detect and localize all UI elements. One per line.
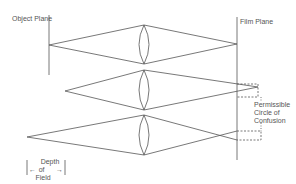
in-focus-rays <box>49 25 237 64</box>
near-limit-rays <box>65 70 258 110</box>
lens-top <box>139 25 149 64</box>
dof-line-1: Depth <box>26 158 66 166</box>
coc-box-bottom <box>237 131 261 140</box>
coc-line-2: Circle of <box>254 109 290 117</box>
object-plane-label: Object Plane <box>12 15 52 23</box>
left-arrow-icon: ← <box>29 166 36 174</box>
far-limit-rays <box>27 115 261 155</box>
right-arrow-icon: → <box>56 166 63 174</box>
lens-middle <box>139 70 149 110</box>
film-plane-label: Film Plane <box>240 18 273 26</box>
dof-line-3: Field <box>26 174 66 182</box>
dof-line-2: of <box>39 166 45 174</box>
coc-line-1: Permissible <box>254 101 290 109</box>
dof-line-2-row: ← of → <box>26 166 66 174</box>
coc-line-3: Confusion <box>254 117 290 125</box>
circle-of-confusion-label: Permissible Circle of Confusion <box>254 101 290 125</box>
depth-of-field-diagram <box>0 0 296 184</box>
lens-bottom <box>139 115 149 155</box>
depth-of-field-label: Depth ← of → Field <box>26 158 66 182</box>
